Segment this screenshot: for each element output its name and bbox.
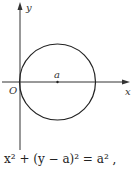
y-axis-label: y [25, 2, 32, 13]
x-axis-label: x [125, 86, 131, 97]
origin-label: O [9, 85, 17, 96]
circle-equation: x² + (y − a)² = a² , [0, 152, 131, 166]
center-point [56, 81, 58, 83]
center-label: a [54, 69, 60, 80]
y-axis-arrow-icon [18, 2, 23, 10]
x-axis-arrow-icon [122, 80, 130, 85]
